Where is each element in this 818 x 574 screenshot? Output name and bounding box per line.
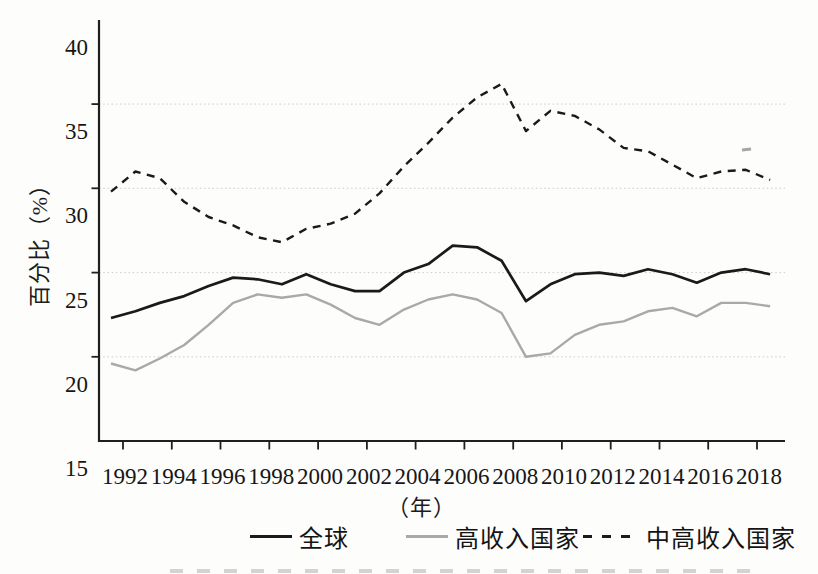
y-tick-label-40: 40 — [65, 35, 88, 60]
y-tick-label-25: 25 — [65, 288, 88, 313]
chart-canvas: 1520253035401992199419961998200020022004… — [0, 0, 818, 574]
x-tick-label-2008: 2008 — [492, 464, 538, 489]
series-line-中高收入国家 — [111, 84, 770, 242]
x-tick-label-2010: 2010 — [541, 464, 587, 489]
legend: 全球 高收入国家 中高收入国家 — [0, 521, 818, 553]
y-axis-title: 百分比（%） — [21, 173, 53, 307]
x-tick-label-2002: 2002 — [346, 464, 392, 489]
x-axis-title: （年） — [387, 489, 456, 521]
solid-gray-line-swatch — [406, 535, 448, 538]
legend-label-high-income: 高收入国家 — [455, 519, 580, 554]
legend-label-upper-middle-income: 中高收入国家 — [646, 519, 796, 554]
legend-label-global: 全球 — [299, 519, 349, 554]
dashed-line-swatch — [583, 535, 639, 538]
cropped-caption-artifact — [170, 569, 760, 573]
x-tick-label-2000: 2000 — [297, 464, 343, 489]
y-tick-label-30: 30 — [65, 203, 88, 228]
y-tick-label-35: 35 — [65, 119, 88, 144]
y-tick-label-15: 15 — [65, 456, 88, 481]
solid-black-line-swatch — [250, 535, 292, 538]
axes — [99, 20, 785, 441]
x-tick-labels: 1992199419961998200020022004200620082010… — [102, 464, 782, 489]
x-tick-label-1996: 1996 — [200, 464, 246, 489]
x-tick-label-2006: 2006 — [443, 464, 489, 489]
y-tick-labels: 152025303540 — [65, 35, 88, 481]
x-tick-label-2018: 2018 — [736, 464, 782, 489]
y-tick-label-20: 20 — [65, 372, 88, 397]
x-ticks — [123, 441, 757, 450]
series-line-高收入国家 — [111, 294, 770, 370]
legend-item-global: 全球 — [250, 521, 349, 551]
x-tick-label-1998: 1998 — [248, 464, 294, 489]
legend-item-upper-middle-income: 中高收入国家 — [583, 521, 796, 551]
y-ticks — [92, 104, 100, 357]
x-tick-label-2004: 2004 — [395, 464, 442, 489]
gridlines — [99, 104, 785, 357]
x-tick-label-1992: 1992 — [102, 464, 148, 489]
x-tick-label-2012: 2012 — [590, 464, 636, 489]
legend-item-high-income: 高收入国家 — [406, 521, 580, 551]
x-tick-label-1994: 1994 — [151, 464, 198, 489]
x-tick-label-2014: 2014 — [639, 464, 686, 489]
chart-figure: 1520253035401992199419961998200020022004… — [0, 0, 818, 574]
x-tick-label-2016: 2016 — [687, 464, 733, 489]
